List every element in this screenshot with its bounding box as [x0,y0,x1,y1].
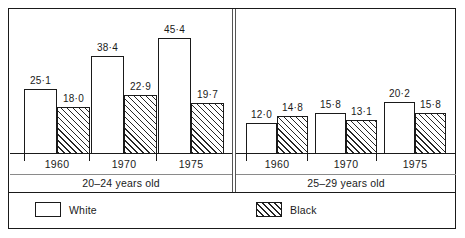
bar-wrap: 12·0 [246,9,277,153]
year-tick-label: 1975 [384,154,446,174]
bar-black[interactable]: 13·1 [346,120,377,153]
age-band-caption-25-29: 25–29 years old [236,174,456,192]
year-text: 1970 [334,158,359,170]
axis-tick [24,154,25,161]
bar-value-label: 12·0 [251,109,272,120]
bar-black[interactable]: 22·9 [124,95,157,153]
bar-wrap: 15·8 [315,9,346,153]
bar-value-label: 45·4 [164,24,185,35]
bar-value-label: 15·8 [320,99,341,110]
bar-white[interactable]: 25·1 [24,89,57,153]
bar-black[interactable]: 15·8 [415,113,446,153]
year-text: 1975 [403,158,428,170]
bar-wrap: 18·0 [57,9,90,153]
bar-value-label: 18·0 [63,93,84,104]
legend-item-white[interactable]: White [35,202,97,217]
legend-swatch-hatched [256,202,282,217]
bar-group: 25·1 18·0 [24,9,90,153]
year-text: 1960 [45,158,70,170]
bar-wrap: 45·4 [158,9,191,153]
bar-wrap: 25·1 [24,9,57,153]
bar-groups-right: 12·0 14·8 15·8 [246,9,446,153]
axis-tick [246,154,247,161]
bar-wrap: 19·7 [191,9,224,153]
bar-wrap: 20·2 [384,9,415,153]
year-axis-right: 1960 1970 1975 [236,154,456,175]
bar-black[interactable]: 18·0 [57,107,90,153]
bar-value-label: 25·1 [30,75,51,86]
chart-legend: White Black [9,192,455,229]
axis-tick [376,154,377,161]
legend-item-black[interactable]: Black [256,202,317,217]
year-text: 1970 [112,158,137,170]
bar-value-label: 20·2 [389,88,410,99]
chart-panel-25-29: 12·0 14·8 15·8 [236,9,456,154]
bar-wrap: 22·9 [124,9,157,153]
axis-tick [89,154,90,161]
bar-wrap: 38·4 [91,9,124,153]
bar-white[interactable]: 38·4 [91,56,124,153]
year-tick-label: 1975 [158,154,224,174]
year-text: 1960 [265,158,290,170]
bar-group: 45·4 19·7 [158,9,224,153]
bar-value-label: 15·8 [420,99,441,110]
bar-group: 12·0 14·8 [246,9,308,153]
bar-wrap: 14·8 [277,9,308,153]
year-tick-label: 1960 [24,154,90,174]
year-text: 1975 [179,158,204,170]
year-cells: 1960 1970 1975 [246,154,446,174]
bar-wrap: 15·8 [415,9,446,153]
axis-tick [307,154,308,161]
bar-wrap: 13·1 [346,9,377,153]
bar-value-label: 14·8 [282,102,303,113]
legend-label: Black [290,204,317,216]
bar-value-label: 13·1 [351,106,372,117]
axis-tick [156,154,157,161]
bar-black[interactable]: 19·7 [191,103,224,153]
year-cells: 1960 1970 1975 [24,154,224,174]
age-band-caption-20-24: 20–24 years old [10,174,232,192]
bar-groups-left: 25·1 18·0 38·4 [24,9,224,153]
bar-group: 38·4 22·9 [91,9,157,153]
year-tick-label: 1960 [246,154,308,174]
chart-panel-20-24: 25·1 18·0 38·4 [10,9,232,154]
bar-value-label: 38·4 [97,42,118,53]
bar-value-label: 19·7 [197,89,218,100]
bar-white[interactable]: 12·0 [246,123,277,153]
legend-swatch-open [35,202,61,217]
bar-group: 15·8 13·1 [315,9,377,153]
bar-black[interactable]: 14·8 [277,116,308,154]
year-tick-label: 1970 [91,154,157,174]
year-tick-label: 1970 [315,154,377,174]
bar-value-label: 22·9 [130,81,151,92]
legend-label: White [69,204,97,216]
bar-white[interactable]: 45·4 [158,38,191,153]
bar-white[interactable]: 15·8 [315,113,346,153]
bar-white[interactable]: 20·2 [384,102,415,153]
bar-group: 20·2 15·8 [384,9,446,153]
chart-figure: 25·1 18·0 38·4 [8,8,456,229]
year-axis-left: 1960 1970 1975 [10,154,232,175]
